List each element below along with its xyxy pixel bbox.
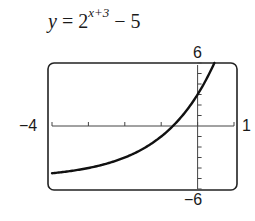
- y-max-label: 6: [193, 44, 202, 62]
- graph-window: [0, 0, 255, 221]
- x-min-label: −4: [19, 117, 37, 135]
- x-max-label: 1: [242, 117, 251, 135]
- y-min-label: −6: [184, 191, 202, 209]
- function-curve: [52, 63, 214, 173]
